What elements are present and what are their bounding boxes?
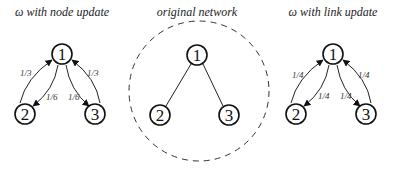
right-panel-graph: 1/4 1/4 1/4 1/4 1 2 3 [286, 44, 376, 124]
svg-text:3: 3 [225, 106, 234, 125]
weight-2-to-1: 1/3 [20, 68, 32, 78]
svg-text:1: 1 [329, 45, 338, 64]
svg-text:2: 2 [156, 106, 165, 125]
node-2: 2 [286, 104, 306, 124]
node-3: 3 [85, 104, 105, 124]
middle-panel-graph: 1 2 3 [129, 21, 269, 161]
edge-1-3 [203, 64, 223, 106]
svg-text:2: 2 [292, 105, 301, 124]
dashed-boundary-circle [129, 21, 269, 161]
weight-1-to-2: 1/6 [46, 92, 58, 102]
node-3: 3 [356, 104, 376, 124]
network-diagram: 1/3 1/6 1/6 1/3 1 2 3 1 2 3 [0, 0, 396, 171]
svg-text:3: 3 [362, 105, 371, 124]
svg-text:2: 2 [21, 105, 30, 124]
node-1: 1 [52, 44, 72, 64]
edge-1-2 [166, 64, 191, 106]
weight-3-to-1: 1/3 [87, 68, 99, 78]
node-2: 2 [15, 104, 35, 124]
svg-text:1: 1 [193, 46, 202, 65]
weight-1-to-2: 1/4 [318, 91, 330, 101]
node-2: 2 [150, 105, 170, 125]
left-panel-graph: 1/3 1/6 1/6 1/3 1 2 3 [15, 44, 105, 124]
node-1: 1 [323, 44, 343, 64]
svg-text:3: 3 [91, 105, 100, 124]
svg-text:1: 1 [58, 45, 67, 64]
node-3: 3 [219, 105, 239, 125]
weight-3-to-1: 1/4 [358, 70, 370, 80]
node-1: 1 [187, 45, 207, 65]
weight-1-to-3: 1/6 [68, 92, 80, 102]
weight-2-to-1: 1/4 [292, 70, 304, 80]
weight-1-to-3: 1/4 [340, 91, 352, 101]
